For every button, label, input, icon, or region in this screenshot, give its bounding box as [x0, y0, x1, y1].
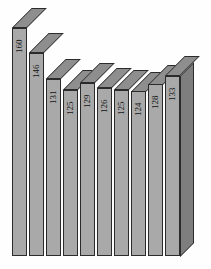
- bar-co: 125: [114, 76, 129, 256]
- bar-mn: 129: [80, 69, 95, 256]
- bar-front-face: 126: [97, 88, 112, 256]
- bar-top-face: [29, 33, 64, 53]
- bar-value-label: 128: [149, 89, 162, 115]
- bar-front-face: 146: [29, 53, 44, 256]
- bar-cu: 128: [148, 70, 163, 256]
- bar-fe: 126: [97, 74, 112, 256]
- bar-value-label: 124: [132, 96, 145, 122]
- bar-value-label: 133: [166, 81, 179, 107]
- bar-side-face: [180, 62, 194, 257]
- bar-sc: 160: [12, 14, 27, 256]
- bar-top-face: [12, 8, 47, 28]
- bar-top-face: [165, 56, 200, 76]
- bar-front-face: 124: [131, 91, 146, 256]
- bar-front-face: 131: [46, 79, 61, 256]
- bar-value-label: 126: [98, 93, 111, 119]
- bar-value-label: 160: [13, 33, 26, 59]
- bar-front-face: 129: [80, 83, 95, 256]
- bar-front-face: 160: [12, 28, 27, 256]
- bar-value-label: 131: [47, 84, 60, 110]
- bar-front-face: 125: [63, 90, 78, 256]
- bar-front-face: 125: [114, 90, 129, 256]
- bar-v: 131: [46, 65, 61, 256]
- bar-chart: 160146131125129126125124128133 ScTiVCrMn…: [0, 0, 211, 269]
- bar-value-label: 125: [115, 95, 128, 121]
- bar-cr: 125: [63, 76, 78, 256]
- bar-value-label: 146: [30, 58, 43, 84]
- bar-zn: 133: [165, 62, 180, 257]
- bar-value-label: 125: [64, 95, 77, 121]
- bar-ni: 124: [131, 77, 146, 256]
- bar-value-label: 129: [81, 88, 94, 114]
- bar-front-face: 133: [165, 76, 180, 257]
- bar-front-face: 128: [148, 84, 163, 256]
- bar-ti: 146: [29, 39, 44, 256]
